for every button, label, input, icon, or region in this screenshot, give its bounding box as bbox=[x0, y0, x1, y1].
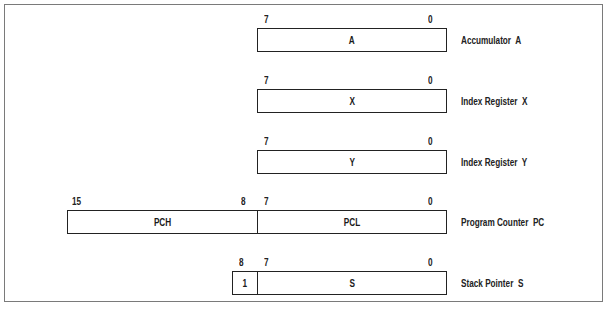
bit-label-7: 7 bbox=[264, 196, 269, 208]
field-name: PCL bbox=[344, 217, 360, 228]
register-box-pcl: PCL bbox=[257, 210, 447, 234]
register-box-y: Y bbox=[257, 150, 447, 174]
bit-label-0: 0 bbox=[428, 196, 433, 208]
field-name: X bbox=[349, 96, 354, 107]
register-box-pch: PCH bbox=[67, 210, 258, 234]
field-name: S bbox=[349, 278, 354, 289]
field-name: PCH bbox=[154, 217, 171, 228]
register-label: Stack Pointer S bbox=[461, 276, 523, 290]
bit-label-0: 0 bbox=[428, 136, 433, 148]
register-label: Program Counter PC bbox=[461, 215, 544, 229]
field-name: 1 bbox=[243, 278, 248, 289]
register-box-x: X bbox=[257, 89, 447, 113]
register-box-a: A bbox=[257, 28, 447, 52]
register-box-page-bit: 1 bbox=[232, 271, 258, 295]
bit-label-0: 0 bbox=[428, 257, 433, 269]
register-box-s: S bbox=[257, 271, 447, 295]
bit-label-8: 8 bbox=[241, 196, 246, 208]
bit-label-0: 0 bbox=[428, 14, 433, 26]
field-name: A bbox=[349, 35, 355, 46]
bit-label-8: 8 bbox=[239, 257, 244, 269]
bit-label-7: 7 bbox=[264, 75, 269, 87]
register-label: Index Register Y bbox=[461, 155, 527, 169]
bit-label-7: 7 bbox=[264, 136, 269, 148]
register-label: Accumulator A bbox=[461, 33, 521, 47]
bit-label-0: 0 bbox=[428, 75, 433, 87]
bit-label-7: 7 bbox=[264, 257, 269, 269]
field-name: Y bbox=[349, 157, 354, 168]
register-label: Index Register X bbox=[461, 94, 527, 108]
bit-label-7: 7 bbox=[264, 14, 269, 26]
bit-label-15: 15 bbox=[72, 196, 81, 208]
